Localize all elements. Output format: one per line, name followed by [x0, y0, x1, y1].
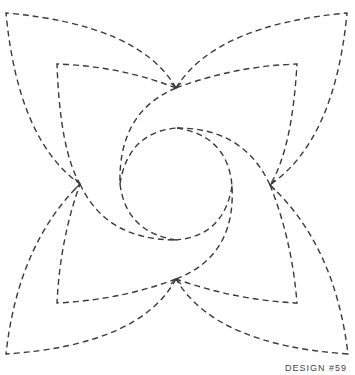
- design-caption: DESIGN #59: [285, 362, 347, 374]
- quilting-design: [0, 0, 355, 375]
- arrowheads: [75, 83, 275, 284]
- center-swirl: [80, 88, 270, 279]
- inner-petals: [57, 64, 297, 303]
